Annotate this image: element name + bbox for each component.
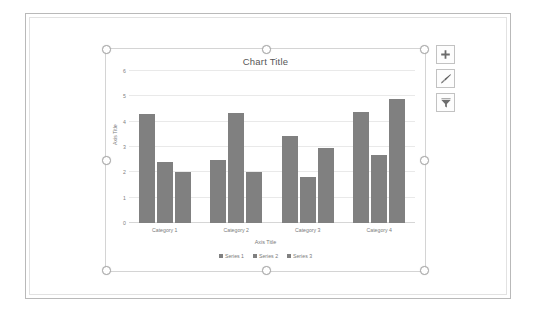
legend-label: Series 2	[259, 253, 278, 259]
y-tick-label: 6	[123, 68, 126, 74]
bar[interactable]	[389, 99, 405, 223]
chart-styles-button[interactable]	[436, 69, 455, 88]
y-tick-label: 0	[123, 220, 126, 226]
paintbrush-icon	[440, 73, 452, 85]
x-axis-title[interactable]: Axis Title	[106, 239, 425, 245]
chart-quick-buttons	[436, 45, 455, 112]
selection-handle-n[interactable]	[262, 45, 271, 54]
y-axis-title[interactable]: Axis Title	[112, 124, 118, 145]
legend-item[interactable]: Series 3	[287, 253, 312, 259]
category-group	[272, 71, 344, 223]
legend-label: Series 3	[293, 253, 312, 259]
bar[interactable]	[246, 172, 262, 223]
legend-label: Series 1	[225, 253, 244, 259]
bar[interactable]	[300, 177, 316, 223]
bar[interactable]	[371, 155, 387, 223]
category-label: Category 3	[272, 227, 344, 233]
chart-object[interactable]: Chart Title Axis Title 0123456 Category …	[105, 48, 426, 272]
bars-layer	[129, 71, 415, 223]
y-tick-label: 2	[123, 169, 126, 175]
legend-swatch	[219, 254, 223, 258]
chart-elements-button[interactable]	[436, 45, 455, 64]
y-tick-label: 3	[123, 144, 126, 150]
bar[interactable]	[139, 114, 155, 223]
category-group	[129, 71, 201, 223]
legend-swatch	[287, 254, 291, 258]
funnel-icon	[440, 97, 452, 109]
bar[interactable]	[210, 160, 226, 223]
category-axis-labels[interactable]: Category 1Category 2Category 3Category 4	[129, 227, 415, 233]
category-label: Category 4	[344, 227, 416, 233]
selection-handle-se[interactable]	[420, 266, 429, 275]
bar[interactable]	[282, 136, 298, 223]
plot-area[interactable]: 0123456	[129, 71, 415, 223]
legend-item[interactable]: Series 1	[219, 253, 244, 259]
selection-handle-w[interactable]	[102, 156, 111, 165]
selection-handle-s[interactable]	[262, 266, 271, 275]
category-group	[201, 71, 273, 223]
selection-handle-nw[interactable]	[102, 45, 111, 54]
legend-item[interactable]: Series 2	[253, 253, 278, 259]
y-tick-label: 1	[123, 195, 126, 201]
category-label: Category 1	[129, 227, 201, 233]
bar[interactable]	[318, 148, 334, 223]
selection-handle-sw[interactable]	[102, 266, 111, 275]
chart-title[interactable]: Chart Title	[106, 56, 425, 67]
bar[interactable]	[175, 172, 191, 223]
y-tick-label: 4	[123, 119, 126, 125]
bar[interactable]	[353, 112, 369, 223]
legend-swatch	[253, 254, 257, 258]
chart-legend[interactable]: Series 1Series 2Series 3	[106, 253, 425, 259]
category-group	[344, 71, 416, 223]
y-tick-label: 5	[123, 93, 126, 99]
selection-handle-e[interactable]	[420, 156, 429, 165]
bar[interactable]	[228, 113, 244, 223]
selection-handle-ne[interactable]	[420, 45, 429, 54]
chart-filters-button[interactable]	[436, 93, 455, 112]
slide-canvas[interactable]: Chart Title Axis Title 0123456 Category …	[25, 13, 511, 299]
category-label: Category 2	[201, 227, 273, 233]
plus-icon	[440, 49, 451, 60]
bar[interactable]	[157, 162, 173, 223]
